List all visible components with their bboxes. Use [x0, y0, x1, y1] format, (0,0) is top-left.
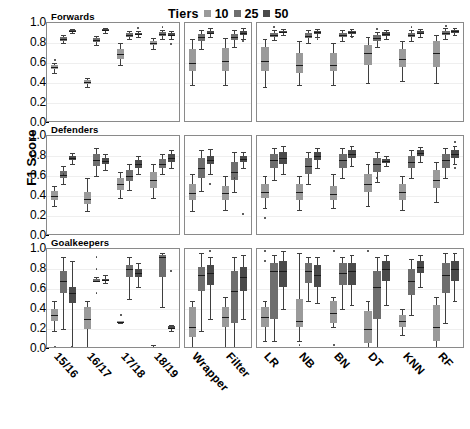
- box-whisker-cap: [241, 255, 246, 256]
- x-tick-label-knn: KNN: [401, 350, 427, 377]
- box[interactable]: [364, 45, 371, 65]
- y-tick-0.2: 0.2: [12, 321, 46, 335]
- box-median: [222, 317, 229, 318]
- box-whisker-cap: [169, 150, 174, 151]
- box[interactable]: [126, 265, 133, 277]
- box-whisker: [201, 253, 202, 331]
- box-whisker-cap: [160, 307, 165, 308]
- box-whisker-cap: [127, 31, 132, 32]
- box[interactable]: [442, 263, 449, 293]
- box-whisker-cap: [350, 29, 355, 30]
- box-median: [348, 271, 355, 272]
- box-whisker-cap: [70, 164, 75, 165]
- box-median: [135, 164, 142, 165]
- box-median: [330, 313, 337, 314]
- box-whisker-cap: [151, 49, 156, 50]
- panel-classifiers-forwards[interactable]: [256, 22, 464, 122]
- box[interactable]: [222, 48, 229, 71]
- box-whisker-cap: [94, 148, 99, 149]
- box[interactable]: [399, 49, 406, 67]
- box-whisker-cap: [340, 148, 345, 149]
- box-whisker-cap: [366, 301, 371, 302]
- box-whisker-cap: [52, 331, 57, 332]
- y-axis-goalkeepers: 1.00.80.60.40.20.0: [4, 248, 46, 348]
- box-median: [408, 35, 415, 36]
- box-whisker-cap: [223, 297, 228, 298]
- box[interactable]: [305, 263, 312, 283]
- facet-row-forwards: Forwards 1.00.80.60.40.20.0: [0, 22, 470, 134]
- box[interactable]: [296, 299, 303, 327]
- box[interactable]: [348, 263, 355, 285]
- panel-featureselection-forwards[interactable]: [184, 22, 252, 122]
- box[interactable]: [382, 261, 389, 281]
- box-whisker-cap: [315, 168, 320, 169]
- box-whisker-cap: [160, 154, 165, 155]
- box-whisker-cap: [306, 301, 311, 302]
- legend-item-25[interactable]: 25: [234, 7, 259, 21]
- box[interactable]: [433, 305, 440, 341]
- legend-item-50[interactable]: 50: [263, 7, 288, 21]
- box[interactable]: [279, 261, 286, 287]
- box-whisker-cap: [190, 301, 195, 302]
- panel-featureselection-defenders[interactable]: [184, 135, 252, 235]
- box[interactable]: [373, 271, 380, 319]
- box[interactable]: [207, 265, 214, 285]
- box-median: [364, 53, 371, 54]
- row-title-defenders: Defenders: [49, 124, 100, 135]
- box-median: [348, 154, 355, 155]
- box-whisker-cap: [418, 162, 423, 163]
- box-median: [261, 317, 268, 318]
- box[interactable]: [261, 184, 268, 198]
- box-median: [240, 159, 247, 160]
- box[interactable]: [189, 307, 196, 337]
- box-whisker-cap: [350, 255, 355, 256]
- box[interactable]: [240, 267, 247, 291]
- box-whisker-cap: [136, 174, 141, 175]
- box-whisker-cap: [94, 176, 99, 177]
- legend-item-10[interactable]: 10: [204, 7, 229, 21]
- panel-featureselection-goalkeepers[interactable]: [184, 248, 252, 348]
- y-tick-0.8: 0.8: [12, 148, 46, 162]
- box-median: [417, 153, 424, 154]
- box[interactable]: [189, 49, 196, 71]
- box-whisker-cap: [127, 164, 132, 165]
- panel-classifiers-defenders[interactable]: [256, 135, 464, 235]
- box-median: [159, 34, 166, 35]
- panel-classifiers-goalkeepers[interactable]: [256, 248, 464, 348]
- box[interactable]: [296, 53, 303, 73]
- box[interactable]: [150, 347, 157, 348]
- box[interactable]: [84, 307, 91, 329]
- panel-seasons-goalkeepers[interactable]: [46, 248, 180, 348]
- box[interactable]: [433, 170, 440, 188]
- box[interactable]: [69, 287, 76, 303]
- box[interactable]: [364, 174, 371, 192]
- box[interactable]: [330, 53, 337, 71]
- box-whisker-cap: [85, 78, 90, 79]
- box[interactable]: [189, 184, 196, 200]
- box[interactable]: [451, 261, 458, 281]
- legend-label-10: 10: [215, 7, 229, 21]
- box[interactable]: [364, 311, 371, 343]
- y-axis-defenders: 1.00.80.60.40.20.0: [4, 135, 46, 235]
- box[interactable]: [231, 271, 238, 323]
- box-whisker-cap: [223, 176, 228, 177]
- box[interactable]: [84, 192, 91, 204]
- box-whisker-cap: [409, 178, 414, 179]
- box-whisker-cap: [118, 43, 123, 44]
- gridline: [257, 289, 463, 290]
- panel-seasons-forwards[interactable]: [46, 22, 180, 122]
- box-median: [135, 34, 142, 35]
- box-whisker-cap: [232, 257, 237, 258]
- box-whisker-cap: [85, 301, 90, 302]
- y-tick-0.0: 0.0: [12, 228, 46, 242]
- box[interactable]: [198, 267, 205, 291]
- box[interactable]: [330, 301, 337, 323]
- row-title-goalkeepers: Goalkeepers: [49, 237, 111, 248]
- box-whisker: [72, 261, 73, 348]
- box-whisker-cap: [199, 191, 204, 192]
- box-whisker-cap: [297, 341, 302, 342]
- box-outlier: [273, 26, 275, 28]
- panel-seasons-defenders[interactable]: [46, 135, 180, 235]
- box[interactable]: [261, 47, 268, 71]
- box[interactable]: [330, 186, 337, 200]
